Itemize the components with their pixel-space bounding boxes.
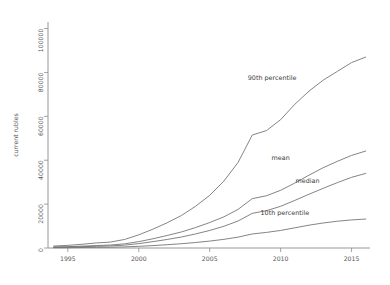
y-tick-label: 100000 xyxy=(37,29,44,53)
y-tick-label: 60000 xyxy=(37,116,44,136)
series-label-mean: mean xyxy=(272,154,290,162)
plot-area-background xyxy=(48,22,370,248)
x-tick-label: 2005 xyxy=(202,255,218,262)
x-tick-label: 2015 xyxy=(344,255,360,262)
x-tick-label: 2010 xyxy=(273,255,289,262)
x-tick-label: 1995 xyxy=(60,255,76,262)
y-tick-label: 40000 xyxy=(37,160,44,180)
line-chart-plot: 020000400006000080000100000 199520002005… xyxy=(0,0,390,285)
series-label-90th-percentile: 90th percentile xyxy=(248,74,297,82)
y-axis-title: current rubles xyxy=(12,113,19,156)
x-axis: 19952000200520102015 xyxy=(60,248,360,262)
y-tick-label: 80000 xyxy=(37,72,44,92)
chart-figure: 020000400006000080000100000 199520002005… xyxy=(0,0,390,285)
plot-background-group xyxy=(48,22,370,248)
y-tick-label: 20000 xyxy=(37,204,44,224)
y-axis: 020000400006000080000100000 xyxy=(37,29,48,252)
y-tick-label: 0 xyxy=(37,248,44,252)
series-label-median: median xyxy=(296,177,320,185)
x-tick-label: 2000 xyxy=(131,255,147,262)
series-label-10th-percentile: 10th percentile xyxy=(261,209,310,217)
